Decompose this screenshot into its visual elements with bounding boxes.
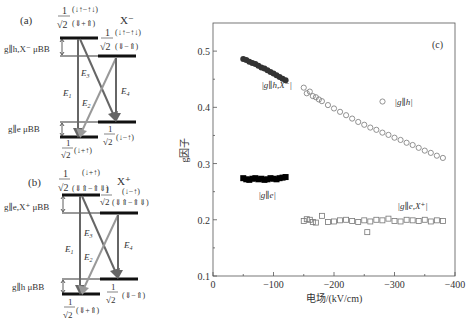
series-annotation: |g∥h,X⁻| (261, 80, 292, 90)
data-point (362, 218, 367, 223)
panel-c-label: (c) (432, 39, 443, 51)
y-tick-label: 0.4 (198, 102, 211, 113)
data-point (398, 219, 403, 224)
panel-a-label: (a) (20, 14, 33, 27)
svg-text:1: 1 (105, 185, 110, 195)
data-point (337, 109, 342, 114)
data-point (416, 145, 421, 150)
panel-a-lower-splitting: g∥e μBB (8, 124, 40, 134)
data-point (440, 155, 445, 160)
svg-text:1: 1 (63, 168, 68, 179)
x-tick-label: −200 (324, 279, 345, 290)
data-point (380, 130, 385, 135)
data-point (325, 220, 330, 225)
panel-a-lower-right-state: 1 √2 (↓−↑) (103, 124, 134, 147)
data-point (380, 218, 385, 223)
series-annotation: |g∥h| (395, 97, 413, 107)
x-axis-ticks: 0−100−200−300−400 (211, 272, 466, 290)
svg-text:√2: √2 (58, 182, 69, 193)
panel-b-upper-left-state: 1 √2 (↓+↑) (⇓⇑−⇑⇓) (58, 168, 109, 193)
series-annotation: |g∥e,X⁺| (398, 201, 428, 211)
data-point (319, 99, 324, 104)
data-point (319, 213, 324, 218)
transition-E3: E3 (80, 68, 90, 79)
data-point (404, 140, 409, 145)
transition-E2: E2 (81, 98, 91, 109)
svg-text:E2: E2 (83, 252, 93, 263)
data-point (301, 85, 306, 90)
svg-text:(↓+↑): (↓+↑) (74, 146, 92, 155)
y-tick-label: 0.5 (198, 46, 211, 57)
data-point (310, 93, 315, 98)
svg-text:E4: E4 (123, 240, 133, 251)
g-factor-chart: 0.10.20.30.40.5 0−100−200−300−400 (c) 电场… (179, 23, 465, 305)
data-point (368, 125, 373, 130)
svg-text:(↓↑−↑↓): (↓↑−↑↓) (115, 28, 141, 37)
transition-E4: E4 (120, 86, 130, 97)
data-point (344, 217, 349, 222)
svg-text:(⇓⇑−⇑⇓): (⇓⇑−⇑⇓) (72, 184, 109, 193)
data-point (434, 218, 439, 223)
data-point (428, 219, 433, 224)
svg-text:1: 1 (111, 282, 116, 292)
panel-b-lower-splitting: g∥h μBB (12, 282, 44, 292)
series-annotation: |g∥e| (258, 190, 276, 200)
series-annotations: |g∥h,X⁻||g∥e||g∥h||g∥e,X⁺| (258, 80, 427, 211)
data-point (398, 137, 403, 142)
data-point (350, 218, 355, 223)
data-point (422, 148, 427, 153)
state-spin-bottom: (⇓+⇑) (72, 19, 96, 28)
svg-text:1: 1 (62, 5, 67, 16)
panel-b-label: (b) (28, 176, 41, 189)
data-point (362, 122, 367, 127)
panel-a-upper-left-state: 1 √2 (↓↑−↑↓) (⇓+⇑) (57, 5, 98, 30)
svg-text:(↓+↑): (↓+↑) (82, 168, 100, 177)
data-point (350, 116, 355, 121)
data-point (422, 217, 427, 222)
y-axis-ticks: 0.10.20.30.40.5 (198, 46, 218, 282)
data-point (304, 91, 309, 96)
y-tick-label: 0.3 (198, 159, 211, 170)
data-point (374, 127, 379, 132)
svg-text:1: 1 (105, 27, 110, 38)
svg-text:√2: √2 (100, 197, 109, 207)
svg-text:√2: √2 (63, 310, 72, 320)
data-point (368, 219, 373, 224)
svg-text:√2: √2 (61, 150, 70, 160)
x-tick-label: 0 (211, 279, 216, 290)
y-tick-label: 0.2 (198, 215, 211, 226)
svg-text:(⇓−⇑): (⇓−⇑) (122, 291, 146, 300)
y-axis-label: g因子 (179, 138, 190, 163)
panel-a-energy-diagram: (a) 1 √2 (↓↑−↑↓) (⇓+⇑) X⁻ 1 √2 (↓↑−↑↓) (… (4, 5, 141, 160)
data-point (386, 132, 391, 137)
svg-text:(↓−↑): (↓−↑) (122, 187, 140, 196)
data-point (392, 218, 397, 223)
y-tick-label: 0.1 (198, 271, 211, 282)
series-open-square (301, 213, 445, 234)
panel-b-lower-left-state: 1 √2 (⇓+⇑) (63, 297, 100, 320)
x-tick-label: −400 (445, 279, 466, 290)
svg-text:√2: √2 (106, 295, 115, 305)
data-point (283, 174, 289, 180)
svg-text:1: 1 (68, 297, 73, 307)
svg-text:√2: √2 (57, 19, 68, 30)
svg-text:(⇓−⇑): (⇓−⇑) (115, 42, 139, 51)
panel-a-upper-splitting: g∥h,X⁻ μBB (4, 44, 50, 54)
data-point (440, 218, 445, 223)
svg-text:√2: √2 (103, 137, 112, 147)
data-point (338, 218, 343, 223)
transition-E1: E1 (62, 88, 72, 99)
series-filled-square (240, 174, 288, 183)
svg-text:√2: √2 (100, 41, 111, 52)
panel-b-upper-right-state: 1 √2 (↓−↑) (⇓⇑−⇑⇓) (100, 185, 149, 207)
svg-text:E3: E3 (83, 228, 93, 239)
panel-b-lower-right-state: 1 √2 (⇓−⇑) (106, 282, 146, 305)
panel-b-energy-diagram: (b) 1 √2 (↓+↑) (⇓⇑−⇑⇓) X⁺ 1 √2 (↓−↑) (⇓⇑… (4, 168, 149, 320)
data-point (416, 218, 421, 223)
svg-text:(↓−↑): (↓−↑) (116, 133, 134, 142)
data-point (344, 113, 349, 118)
svg-text:1: 1 (66, 138, 71, 148)
data-point (301, 218, 306, 223)
state-spin-top: (↓↑−↑↓) (72, 5, 98, 14)
data-point (332, 219, 337, 224)
